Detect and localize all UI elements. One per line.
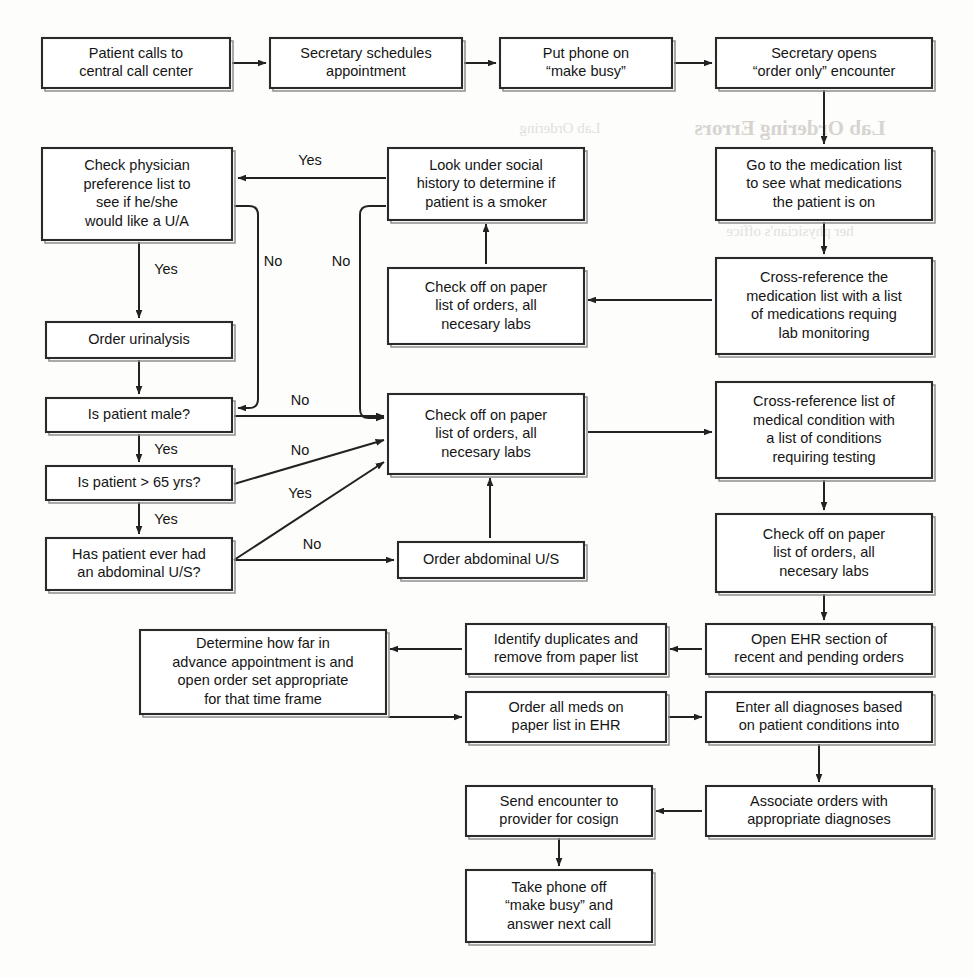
scan-bleedthrough-mark: Lab Ordering Errors	[695, 116, 886, 140]
edge-label-yes: Yes	[298, 152, 322, 168]
edge-label-yes: Yes	[154, 261, 178, 277]
edge-label-no: No	[264, 253, 283, 269]
connector: No	[234, 536, 394, 560]
process-box: Check off on paperlist of orders, allnec…	[388, 268, 587, 347]
connector: No	[234, 206, 282, 408]
process-box-label: Look under socialhistory to determine if…	[417, 156, 557, 209]
edge-label-no: No	[291, 392, 310, 408]
process-box: Order all meds onpaper list in EHR	[466, 692, 669, 745]
process-box: Has patient ever hadan abdominal U/S?	[46, 538, 235, 593]
edge-label-yes: Yes	[154, 511, 178, 527]
connector: Yes	[139, 502, 178, 534]
process-box: Open EHR section ofrecent and pending or…	[706, 624, 935, 677]
process-box: Go to the medication listto see what med…	[716, 148, 935, 223]
edge-label-no: No	[332, 253, 351, 269]
edge-label-yes: Yes	[288, 485, 312, 501]
process-box-layer: Patient calls tocentral call centerSecre…	[42, 38, 935, 945]
process-box: Is patient male?	[46, 398, 235, 435]
connector: Yes	[139, 242, 178, 318]
process-box-label: Is patient > 65 yrs?	[78, 474, 201, 490]
process-box: Look under socialhistory to determine if…	[388, 148, 587, 223]
connector: No	[332, 206, 386, 418]
connector-arrow	[360, 206, 386, 418]
process-box: Is patient > 65 yrs?	[46, 466, 235, 503]
process-box: Check off on paperlist of orders, allnec…	[716, 514, 935, 595]
process-box: Put phone on“make busy”	[500, 38, 675, 91]
process-box: Enter all diagnoses basedon patient cond…	[706, 692, 935, 745]
process-box-label: Order urinalysis	[88, 331, 190, 347]
process-box: Check physicianpreference list tosee if …	[42, 148, 235, 243]
flowchart-page: Lab Ordering Errorsher physician's offic…	[0, 0, 974, 978]
process-box: Cross-reference list ofmedical condition…	[716, 382, 935, 481]
process-box: Cross-reference themedication list with …	[716, 258, 935, 357]
process-box-label: Order abdominal U/S	[423, 551, 559, 567]
process-box: Send encounter toprovider for cosign	[466, 786, 655, 839]
process-box: Order abdominal U/S	[398, 542, 587, 581]
process-box: Identify duplicates andremove from paper…	[466, 624, 669, 677]
edge-label-no: No	[303, 536, 322, 552]
process-box: Take phone off“make busy” andanswer next…	[466, 870, 655, 945]
process-box: Patient calls tocentral call center	[42, 38, 233, 91]
edge-label-yes: Yes	[154, 441, 178, 457]
process-box-label: Take phone off“make busy” andanswer next…	[505, 878, 613, 931]
flowchart-canvas: Lab Ordering Errorsher physician's offic…	[0, 0, 974, 978]
process-box-label: Check off on paperlist of orders, allnec…	[763, 525, 885, 578]
process-box: Secretary schedulesappointment	[270, 38, 465, 91]
connector-arrow	[234, 206, 258, 408]
process-box-label: Check off on paperlist of orders, allnec…	[425, 406, 547, 459]
scan-bleedthrough-mark: Lab Ordering	[519, 120, 601, 136]
process-box: Secretary opens“order only” encounter	[716, 38, 935, 91]
process-box: Check off on paperlist of orders, allnec…	[388, 394, 587, 477]
edge-label-no: No	[291, 442, 310, 458]
connector: Yes	[238, 152, 386, 178]
process-box: Order urinalysis	[46, 322, 235, 361]
process-box: Determine how far inadvance appointment …	[140, 630, 389, 717]
process-box-label: Check off on paperlist of orders, allnec…	[425, 278, 547, 331]
process-box-label: Is patient male?	[88, 406, 190, 422]
scan-bleedthrough-mark: her physician's office	[726, 223, 854, 239]
process-box: Associate orders withappropriate diagnos…	[706, 786, 935, 839]
connector: Yes	[139, 434, 178, 462]
